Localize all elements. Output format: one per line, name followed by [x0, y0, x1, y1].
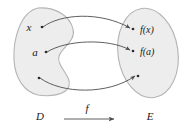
dot-domain-unlabeled: [38, 77, 41, 80]
diagram-canvas: x a f(x) f(a) D E f: [0, 0, 186, 128]
domain-blob-shape: [14, 8, 74, 96]
element-label-f-of-a: f(a): [140, 46, 155, 58]
domain-set-label: D: [35, 110, 44, 122]
function-mapping-figure: x a f(x) f(a) D E f: [0, 0, 186, 128]
dot-f-of-x: [132, 28, 135, 31]
dot-x: [41, 26, 44, 29]
element-label-x: x: [26, 21, 32, 33]
dot-codomain-unlabeled: [137, 75, 140, 78]
element-label-f-of-x: f(x): [140, 24, 155, 36]
dot-a: [45, 51, 48, 54]
mapping-arrow-label: f: [85, 102, 90, 114]
dot-f-of-a: [132, 50, 135, 53]
codomain-set-label: E: [146, 110, 154, 122]
element-label-a: a: [32, 46, 38, 58]
